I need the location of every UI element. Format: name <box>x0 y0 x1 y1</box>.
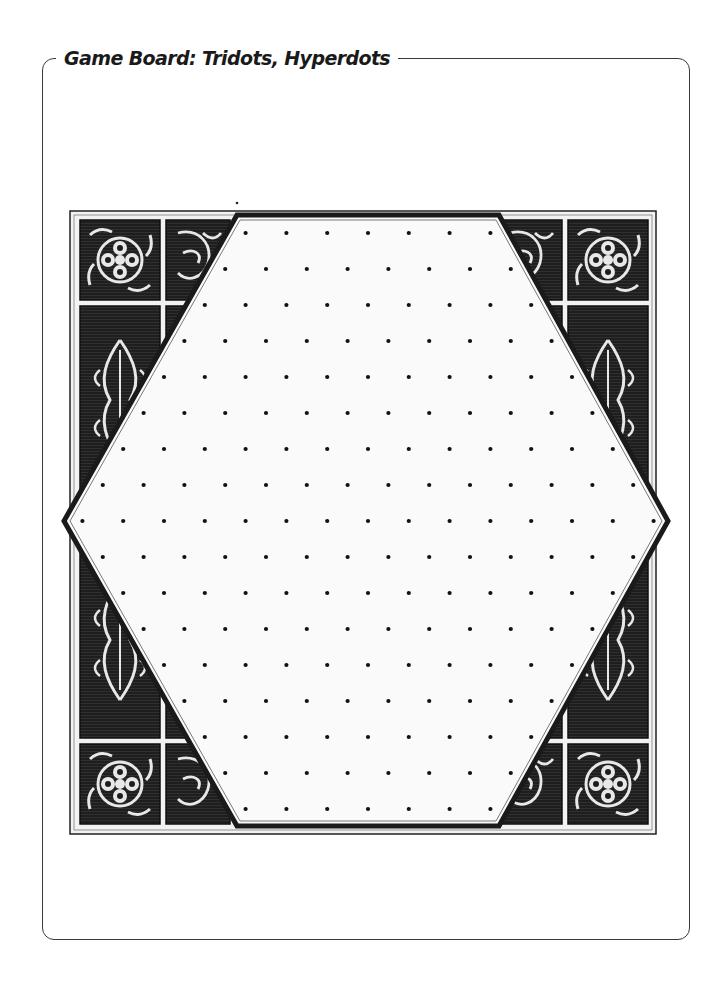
board-dot[interactable] <box>366 807 370 811</box>
board-dot[interactable] <box>366 447 370 451</box>
board-dot[interactable] <box>325 807 329 811</box>
board-dot[interactable] <box>386 339 390 343</box>
board-dot[interactable] <box>203 375 207 379</box>
board-dot[interactable] <box>223 411 227 415</box>
board-dot[interactable] <box>570 591 574 595</box>
board-dot[interactable] <box>509 267 513 271</box>
board-dot[interactable] <box>488 735 492 739</box>
board-dot[interactable] <box>142 555 146 559</box>
board-dot[interactable] <box>427 699 431 703</box>
board-dot[interactable] <box>488 447 492 451</box>
board-dot[interactable] <box>244 807 248 811</box>
board-dot[interactable] <box>264 627 268 631</box>
board-dot[interactable] <box>468 267 472 271</box>
board-dot[interactable] <box>325 375 329 379</box>
board-dot[interactable] <box>203 735 207 739</box>
board-dot[interactable] <box>223 267 227 271</box>
board-dot[interactable] <box>468 555 472 559</box>
board-dot[interactable] <box>386 771 390 775</box>
board-dot[interactable] <box>468 339 472 343</box>
board-dot[interactable] <box>284 735 288 739</box>
board-dot[interactable] <box>203 447 207 451</box>
board-dot[interactable] <box>386 555 390 559</box>
board-dot[interactable] <box>407 447 411 451</box>
board-dot[interactable] <box>203 303 207 307</box>
board-dot[interactable] <box>121 519 125 523</box>
board-dot[interactable] <box>264 483 268 487</box>
board-dot[interactable] <box>611 591 615 595</box>
board-dot[interactable] <box>407 591 411 595</box>
board-dot[interactable] <box>366 303 370 307</box>
board-dot[interactable] <box>550 699 554 703</box>
board-dot[interactable] <box>101 483 105 487</box>
board-dot[interactable] <box>264 555 268 559</box>
board-dot[interactable] <box>386 483 390 487</box>
board-dot[interactable] <box>509 411 513 415</box>
board-dot[interactable] <box>366 663 370 667</box>
board-dot[interactable] <box>305 627 309 631</box>
board-dot[interactable] <box>162 375 166 379</box>
board-dot[interactable] <box>611 447 615 451</box>
board-dot[interactable] <box>407 231 411 235</box>
board-dot[interactable] <box>80 519 84 523</box>
board-dot[interactable] <box>509 555 513 559</box>
board-dot[interactable] <box>223 339 227 343</box>
board-dot[interactable] <box>407 303 411 307</box>
board-dot[interactable] <box>570 663 574 667</box>
board-dot[interactable] <box>529 375 533 379</box>
board-dot[interactable] <box>264 411 268 415</box>
board-dot[interactable] <box>448 735 452 739</box>
board-dot[interactable] <box>264 339 268 343</box>
board-dot[interactable] <box>284 303 288 307</box>
board-dot[interactable] <box>284 663 288 667</box>
board-dot[interactable] <box>325 519 329 523</box>
board-dot[interactable] <box>305 483 309 487</box>
board-dot[interactable] <box>305 267 309 271</box>
board-dot[interactable] <box>325 735 329 739</box>
board-dot[interactable] <box>529 519 533 523</box>
board-dot[interactable] <box>346 771 350 775</box>
board-dot[interactable] <box>386 627 390 631</box>
board-dot[interactable] <box>162 663 166 667</box>
board-dot[interactable] <box>142 411 146 415</box>
board-dot[interactable] <box>182 699 186 703</box>
board-dot[interactable] <box>325 663 329 667</box>
board-dot[interactable] <box>121 447 125 451</box>
board-dot[interactable] <box>386 267 390 271</box>
board-dot[interactable] <box>590 627 594 631</box>
board-dot[interactable] <box>509 771 513 775</box>
board-dot[interactable] <box>203 663 207 667</box>
board-dot[interactable] <box>203 519 207 523</box>
board-dot[interactable] <box>223 627 227 631</box>
board-dot[interactable] <box>631 555 635 559</box>
board-dot[interactable] <box>346 339 350 343</box>
board-dot[interactable] <box>448 663 452 667</box>
board-dot[interactable] <box>244 591 248 595</box>
board-dot[interactable] <box>448 807 452 811</box>
board-dot[interactable] <box>468 411 472 415</box>
board-dot[interactable] <box>488 591 492 595</box>
board-dot[interactable] <box>488 519 492 523</box>
board-dot[interactable] <box>244 663 248 667</box>
board-dot[interactable] <box>407 519 411 523</box>
board-dot[interactable] <box>407 735 411 739</box>
board-dot[interactable] <box>284 231 288 235</box>
board-dot[interactable] <box>325 303 329 307</box>
board-dot[interactable] <box>203 591 207 595</box>
board-dot[interactable] <box>407 807 411 811</box>
board-dot[interactable] <box>244 303 248 307</box>
board-dot[interactable] <box>162 519 166 523</box>
board-dot[interactable] <box>570 519 574 523</box>
board-dot[interactable] <box>284 519 288 523</box>
board-dot[interactable] <box>407 663 411 667</box>
board-dot[interactable] <box>590 483 594 487</box>
board-dot[interactable] <box>346 555 350 559</box>
board-dot[interactable] <box>529 735 533 739</box>
board-dot[interactable] <box>223 555 227 559</box>
board-dot[interactable] <box>346 483 350 487</box>
board-dot[interactable] <box>366 231 370 235</box>
board-dot[interactable] <box>427 339 431 343</box>
board-dot[interactable] <box>509 627 513 631</box>
board-dot[interactable] <box>264 771 268 775</box>
board-dot[interactable] <box>550 411 554 415</box>
